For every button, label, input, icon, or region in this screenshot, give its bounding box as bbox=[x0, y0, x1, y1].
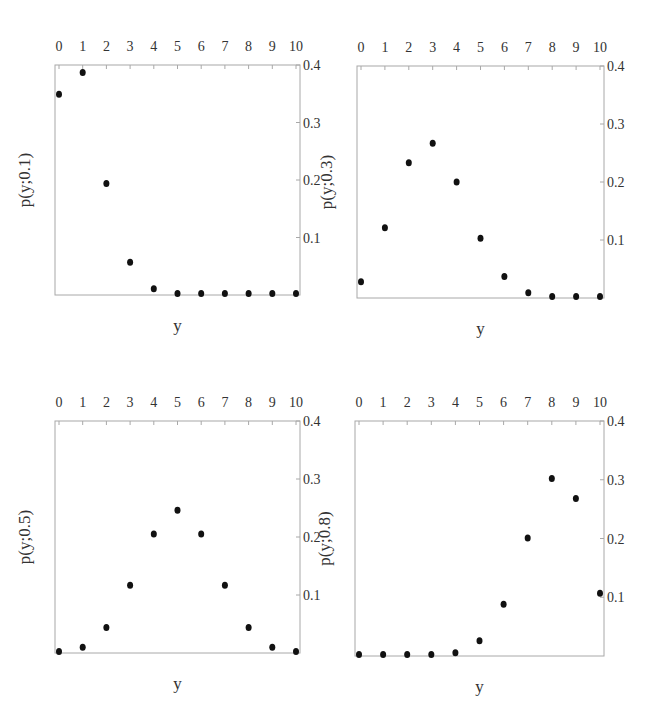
x-tick-label: 9 bbox=[572, 395, 579, 410]
y-tick-label: 0.3 bbox=[303, 116, 321, 131]
x-tick-label: 8 bbox=[548, 395, 555, 410]
data-point bbox=[525, 289, 531, 296]
data-point bbox=[127, 582, 133, 589]
data-point bbox=[478, 235, 484, 242]
data-point bbox=[246, 624, 252, 631]
y-tick-label: 0.1 bbox=[303, 588, 321, 603]
data-point bbox=[452, 649, 458, 656]
data-point bbox=[501, 601, 507, 608]
data-point bbox=[293, 290, 299, 297]
data-point bbox=[175, 507, 181, 514]
x-tick-label: 0 bbox=[56, 39, 63, 54]
data-point bbox=[56, 91, 62, 98]
data-point bbox=[198, 290, 204, 297]
data-point bbox=[597, 590, 603, 597]
x-tick-label: 2 bbox=[103, 395, 110, 410]
x-tick-label: 3 bbox=[428, 395, 435, 410]
x-tick-label: 10 bbox=[593, 395, 607, 410]
data-point bbox=[454, 179, 460, 186]
y-tick-label: 0.4 bbox=[607, 59, 625, 74]
x-tick-label: 9 bbox=[573, 40, 580, 55]
x-tick-label: 5 bbox=[174, 395, 181, 410]
x-tick-label: 5 bbox=[174, 39, 181, 54]
x-tick-label: 5 bbox=[476, 395, 483, 410]
x-tick-label: 8 bbox=[549, 40, 556, 55]
x-tick-label: 0 bbox=[56, 395, 63, 410]
data-point bbox=[246, 290, 252, 297]
x-tick-label: 6 bbox=[198, 395, 205, 410]
x-axis-label: y bbox=[476, 319, 485, 338]
x-tick-label: 3 bbox=[429, 40, 436, 55]
x-tick-label: 6 bbox=[501, 40, 508, 55]
panel-p-0-1: 0123456789100.10.20.30.4yp(y;0.1) bbox=[15, 39, 321, 335]
data-point bbox=[151, 285, 157, 292]
data-point bbox=[406, 159, 412, 166]
binomial-pmf-figure: 0123456789100.10.20.30.4yp(y;0.1) 012345… bbox=[0, 0, 659, 721]
y-tick-label: 0.4 bbox=[303, 58, 321, 73]
x-tick-label: 4 bbox=[150, 395, 157, 410]
data-point bbox=[549, 475, 555, 482]
data-point bbox=[356, 651, 362, 658]
x-tick-label: 7 bbox=[524, 395, 531, 410]
data-point bbox=[573, 495, 579, 502]
x-tick-label: 1 bbox=[381, 40, 388, 55]
data-point bbox=[382, 224, 388, 231]
data-point bbox=[103, 624, 109, 631]
data-point bbox=[501, 273, 507, 280]
data-point bbox=[477, 637, 483, 644]
data-point bbox=[358, 278, 364, 285]
data-point bbox=[198, 531, 204, 538]
panel-p-0-8: 0123456789100.10.20.30.4yp(y;0.8) bbox=[315, 395, 625, 696]
x-tick-label: 0 bbox=[358, 40, 365, 55]
x-tick-label: 10 bbox=[289, 395, 303, 410]
data-point bbox=[428, 651, 434, 658]
plot-frame bbox=[55, 65, 300, 295]
x-axis-label: y bbox=[475, 677, 484, 696]
x-tick-label: 1 bbox=[79, 395, 86, 410]
y-tick-label: 0.4 bbox=[303, 414, 321, 429]
x-tick-label: 9 bbox=[269, 39, 276, 54]
data-point bbox=[549, 293, 555, 300]
plot-frame bbox=[55, 421, 300, 653]
x-tick-label: 6 bbox=[500, 395, 507, 410]
x-tick-label: 6 bbox=[198, 39, 205, 54]
y-tick-label: 0.2 bbox=[607, 175, 625, 190]
data-point bbox=[597, 293, 603, 300]
data-point bbox=[269, 644, 275, 651]
data-point bbox=[222, 290, 228, 297]
data-point bbox=[103, 180, 109, 187]
x-tick-label: 4 bbox=[452, 395, 459, 410]
data-point bbox=[293, 648, 299, 655]
y-axis-label: p(y;0.5) bbox=[15, 510, 34, 564]
x-tick-label: 2 bbox=[103, 39, 110, 54]
data-point bbox=[151, 531, 157, 538]
y-tick-label: 0.1 bbox=[607, 590, 625, 605]
y-tick-label: 0.1 bbox=[607, 233, 625, 248]
x-tick-label: 7 bbox=[221, 395, 228, 410]
panel-p-0-5: 0123456789100.10.20.30.4yp(y;0.5) bbox=[15, 395, 321, 693]
x-tick-label: 2 bbox=[405, 40, 412, 55]
x-tick-label: 10 bbox=[289, 39, 303, 54]
x-tick-label: 5 bbox=[477, 40, 484, 55]
data-point bbox=[56, 648, 62, 655]
data-point bbox=[430, 140, 436, 147]
x-tick-label: 7 bbox=[221, 39, 228, 54]
x-tick-label: 1 bbox=[79, 39, 86, 54]
y-tick-label: 0.3 bbox=[607, 117, 625, 132]
plot-frame bbox=[357, 66, 604, 298]
y-tick-label: 0.4 bbox=[607, 414, 625, 429]
data-point bbox=[80, 69, 86, 76]
y-tick-label: 0.2 bbox=[607, 532, 625, 547]
x-tick-label: 8 bbox=[245, 39, 252, 54]
x-tick-label: 3 bbox=[127, 39, 134, 54]
x-tick-label: 8 bbox=[245, 395, 252, 410]
x-axis-label: y bbox=[173, 674, 182, 693]
plot-frame bbox=[355, 421, 604, 656]
y-tick-label: 0.3 bbox=[303, 472, 321, 487]
y-tick-label: 0.3 bbox=[607, 473, 625, 488]
data-point bbox=[404, 651, 410, 658]
y-axis-label: p(y;0.8) bbox=[315, 511, 334, 565]
x-tick-label: 3 bbox=[127, 395, 134, 410]
y-tick-label: 0.1 bbox=[303, 231, 321, 246]
data-point bbox=[380, 651, 386, 658]
